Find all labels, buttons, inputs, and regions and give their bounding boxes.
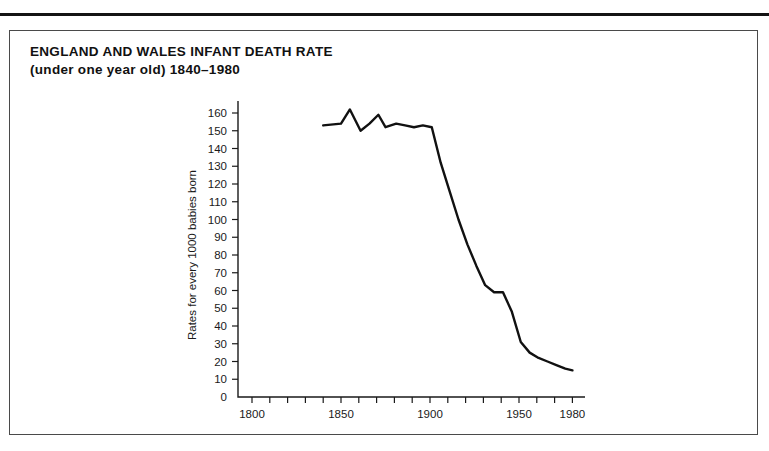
figure-container: ENGLAND AND WALES INFANT DEATH RATE (und… [9, 30, 758, 435]
top-rule-divider [0, 13, 769, 16]
y-tick-label: 140 [208, 143, 227, 155]
x-tick-label: 1900 [417, 408, 443, 420]
y-tick-label: 110 [209, 196, 227, 208]
axis-lines [238, 101, 585, 397]
y-tick-label: 50 [214, 302, 227, 314]
y-tick-label: 150 [208, 125, 227, 137]
x-tick-label: 1800 [239, 408, 265, 420]
y-tick-label: 120 [208, 178, 227, 190]
y-tick-label: 130 [208, 160, 227, 172]
y-axis-title: Rates for every 1000 babies born [186, 170, 198, 340]
chart-plot-area: 0102030405060708090100110120130140150160… [10, 31, 759, 436]
y-axis-ticks: 0102030405060708090100110120130140150160 [208, 107, 238, 403]
y-tick-label: 10 [214, 373, 227, 385]
y-tick-label: 60 [214, 285, 227, 297]
y-tick-label: 100 [208, 214, 227, 226]
x-tick-label: 1950 [506, 408, 532, 420]
y-tick-label: 40 [214, 320, 227, 332]
data-series-line [323, 109, 572, 370]
page: ENGLAND AND WALES INFANT DEATH RATE (und… [0, 0, 769, 451]
y-tick-label: 30 [214, 338, 227, 350]
y-tick-label: 20 [214, 356, 227, 368]
y-tick-label: 90 [214, 231, 227, 243]
y-tick-label: 70 [214, 267, 227, 279]
line-chart: 0102030405060708090100110120130140150160… [10, 31, 759, 436]
x-axis-ticks: 18001850190019501980 [239, 397, 585, 420]
y-tick-label: 0 [221, 391, 227, 403]
y-tick-label: 80 [214, 249, 227, 261]
x-tick-label: 1850 [328, 408, 354, 420]
y-tick-label: 160 [208, 107, 227, 119]
x-tick-label: 1980 [560, 408, 586, 420]
